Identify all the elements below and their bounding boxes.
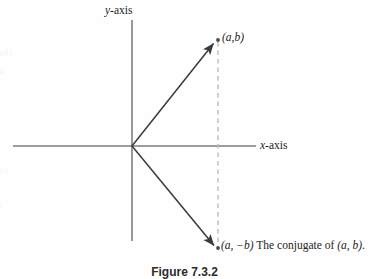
point-label-a-minus-b: (a, −b) The conjugate of (a, b). xyxy=(221,239,365,251)
vector-to-a-b xyxy=(132,44,214,147)
y-axis-label-suffix: -axis xyxy=(110,4,132,16)
x-axis-label-suffix: -axis xyxy=(265,139,287,151)
point-dot-a-minus-b xyxy=(216,246,220,250)
y-axis-label: y-axis xyxy=(105,4,132,16)
figure-caption: Figure 7.3.2 xyxy=(0,265,369,279)
point-dot-a-b xyxy=(216,38,220,42)
vector-to-a-minus-b xyxy=(132,146,214,246)
conjugate-coord-secondary: (a, b) xyxy=(337,239,362,251)
conjugate-period: . xyxy=(362,239,365,251)
conjugate-coord-primary: (a, −b) xyxy=(221,239,254,251)
conjugate-description: The conjugate of xyxy=(254,239,337,251)
x-axis-label: x-axis xyxy=(260,139,287,151)
point-label-a-b: (a,b) xyxy=(222,31,244,43)
